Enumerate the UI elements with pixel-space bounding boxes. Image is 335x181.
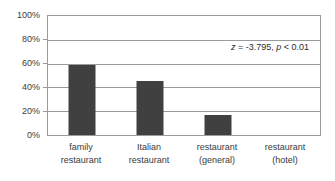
bar-slot-family-restaurant: [48, 16, 116, 135]
y-tick-label-100: 100%: [17, 11, 40, 20]
statistics-annotation: z = -3.795, p < 0.01: [231, 42, 309, 52]
x-label-line-1: restaurant: [183, 141, 251, 154]
x-label-italian-restaurant: Italian restaurant: [115, 141, 183, 167]
bar-slot-italian-restaurant: [116, 16, 184, 135]
x-label-line-2: restaurant: [115, 154, 183, 167]
x-label-family-restaurant: family restaurant: [47, 141, 115, 167]
y-tick-label-0: 0%: [27, 131, 40, 140]
x-label-line-1: family: [47, 141, 115, 154]
y-tick-label-60: 60%: [22, 59, 40, 68]
z-equals: =: [235, 42, 245, 52]
y-tick-label-80: 80%: [22, 35, 40, 44]
x-label-restaurant-hotel: restaurant (hotel): [251, 141, 319, 167]
bar-family-restaurant: [69, 65, 96, 135]
bar-italian-restaurant: [137, 81, 164, 135]
bar-restaurant-general: [205, 115, 232, 135]
bar-series: [48, 16, 320, 135]
x-axis-category-labels: family restaurant Italian restaurant res…: [47, 141, 321, 179]
y-axis-tick-labels: 100% 80% 60% 40% 20% 0%: [0, 0, 44, 181]
x-label-line-2: restaurant: [47, 154, 115, 167]
y-tick-label-20: 20%: [22, 107, 40, 116]
y-tick-label-40: 40%: [22, 83, 40, 92]
x-label-line-1: restaurant: [251, 141, 319, 154]
x-label-line-2: (general): [183, 154, 251, 167]
x-label-restaurant-general: restaurant (general): [183, 141, 251, 167]
plot-area: z = -3.795, p < 0.01: [47, 15, 321, 136]
bar-slot-restaurant-general: [184, 16, 252, 135]
x-label-line-2: (hotel): [251, 154, 319, 167]
z-value: -3.795: [246, 42, 272, 52]
bar-chart-figure: 100% 80% 60% 40% 20% 0% z: [0, 0, 335, 181]
x-label-line-1: Italian: [115, 141, 183, 154]
bar-slot-restaurant-hotel: [252, 16, 320, 135]
p-value: < 0.01: [281, 42, 309, 52]
